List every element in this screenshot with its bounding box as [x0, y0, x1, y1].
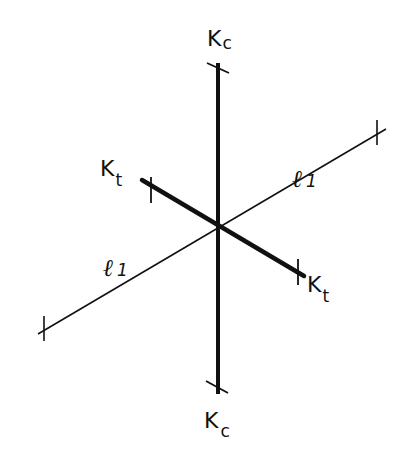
- svg-text:ℓ1: ℓ1: [292, 165, 317, 193]
- kc-bottom-label: K: [204, 408, 219, 433]
- kc-top-label: K: [207, 26, 222, 51]
- svg-text:ℓ1: ℓ1: [103, 254, 128, 282]
- kt-axis-line: [142, 180, 304, 276]
- axes-diagram: Kc Kc Kt Kt ℓ1 ℓ1: [0, 0, 403, 461]
- l1-lower-label: ℓ: [103, 254, 113, 282]
- svg-text:Kc: Kc: [207, 26, 232, 53]
- kt-left-label: K: [100, 156, 115, 181]
- l1-upper-label: ℓ: [292, 165, 302, 193]
- svg-text:Kc: Kc: [204, 408, 230, 441]
- svg-text:Kt: Kt: [100, 156, 122, 190]
- l1-axis-line: [38, 129, 386, 334]
- svg-text:Kt: Kt: [307, 272, 329, 306]
- kt-right-label: K: [307, 272, 322, 297]
